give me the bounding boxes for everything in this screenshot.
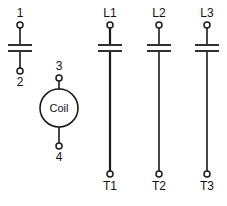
pole-3-line-label: L3 (200, 6, 214, 20)
contactor-schematic-diagram: 1 2 3 Coil 4 L1 (0, 0, 227, 206)
pole-1-load-label: T1 (103, 179, 117, 193)
aux-contact-terminal-1-label: 1 (17, 6, 24, 20)
coil-terminal-3-label: 3 (56, 59, 63, 73)
pole-1-line-label: L1 (103, 6, 117, 20)
power-pole-1-group: L1 T1 (98, 6, 122, 193)
aux-contact-terminal-2-dot (17, 68, 23, 74)
coil-terminal-4-label: 4 (56, 150, 63, 164)
pole-2-load-label: T2 (152, 179, 166, 193)
pole-3-load-terminal-dot (204, 171, 210, 177)
pole-2-line-label: L2 (152, 6, 166, 20)
coil-terminal-3-dot (56, 75, 62, 81)
pole-1-line-terminal-dot (107, 22, 113, 28)
coil-group: 3 Coil 4 (40, 59, 78, 164)
schematic-canvas: 1 2 3 Coil 4 L1 (0, 0, 227, 206)
coil-terminal-4-dot (56, 143, 62, 149)
pole-3-line-terminal-dot (204, 22, 210, 28)
aux-contact-terminal-2-label: 2 (17, 75, 24, 89)
aux-contact-terminal-1-dot (17, 22, 23, 28)
pole-2-line-terminal-dot (156, 22, 162, 28)
power-pole-2-group: L2 T2 (147, 6, 171, 193)
auxiliary-contact-group: 1 2 (8, 6, 32, 89)
pole-1-load-terminal-dot (107, 171, 113, 177)
coil-label: Coil (50, 102, 69, 114)
pole-2-load-terminal-dot (156, 171, 162, 177)
power-pole-3-group: L3 T3 (195, 6, 219, 193)
pole-3-load-label: T3 (200, 179, 214, 193)
